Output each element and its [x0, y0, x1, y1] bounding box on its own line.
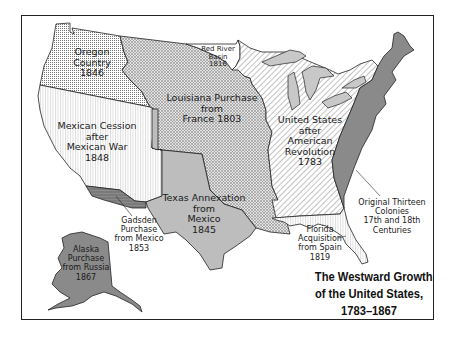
label-gadsden: Gadsden Purchase from Mexico 1853 — [108, 216, 170, 253]
map-title: The Westward Growth of the United States… — [315, 268, 423, 319]
label-original-colonies: Original Thirteen Colonies 17th and 18th… — [352, 198, 432, 235]
leader-colonies — [356, 170, 380, 196]
label-louisiana: Louisiana Purchase from France 1803 — [162, 93, 262, 125]
label-red-river: Red River Basin 1816 — [196, 46, 240, 69]
map-title-line-1: The Westward Growth — [315, 268, 423, 285]
label-alaska: Alaska Purchase from Russia 1867 — [58, 245, 114, 282]
label-oregon: Oregon Country 1846 — [64, 47, 120, 79]
texas-panhandle — [152, 109, 158, 150]
map-title-line-3: 1783–1867 — [315, 302, 423, 319]
label-us-1783: United States after American Revolution … — [270, 115, 350, 168]
label-texas: Texas Annexation from Mexico 1845 — [158, 193, 250, 235]
map-title-line-2: of the United States, — [315, 285, 423, 302]
label-florida: Florida Acquisition from Spain 1819 — [290, 225, 350, 262]
label-mexican-cession: Mexican Cession after Mexican War 1848 — [52, 121, 142, 163]
